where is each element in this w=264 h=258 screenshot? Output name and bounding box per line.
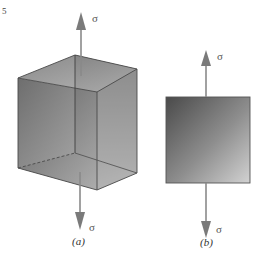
panel-b-square <box>166 97 250 183</box>
panel-b-top-arrow <box>201 50 211 97</box>
panel-a-cube <box>18 55 137 190</box>
panel-a-caption: (a) <box>72 235 85 248</box>
panel-a-top-sigma: σ <box>92 12 98 24</box>
panel-b-bottom-arrow <box>201 183 211 238</box>
arrow-down-icon <box>75 212 85 230</box>
panel-b-caption: (b) <box>200 236 213 249</box>
arrow-up-icon <box>201 50 211 66</box>
panel-b-top-sigma: σ <box>217 50 223 62</box>
cube-front-face <box>18 78 97 190</box>
arrow-up-icon <box>76 12 86 30</box>
panel-b-bottom-sigma: σ <box>216 223 222 235</box>
corner-mark: 5 <box>2 6 7 16</box>
panel-a-bottom-sigma: σ <box>89 221 95 233</box>
stress-diagram: 5 σ σ (a) <box>0 0 264 258</box>
